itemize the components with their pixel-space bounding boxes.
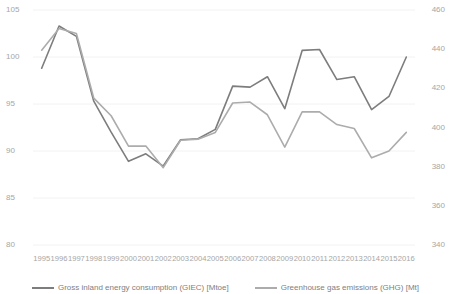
legend-item-giec[interactable]: Gross inland energy consumption (GIEC) […	[32, 283, 229, 292]
chart-legend: Gross inland energy consumption (GIEC) […	[0, 283, 451, 292]
legend-swatch-giec	[32, 287, 54, 289]
legend-label-ghg: Greenhouse gas emissions (GHG) [Mt]	[281, 283, 419, 292]
series-line-ghg	[42, 29, 407, 168]
chart-container: 80859095100105 340360380400420440460 199…	[0, 0, 451, 294]
plot-area	[0, 0, 451, 294]
series-line-giec	[42, 26, 407, 166]
legend-swatch-ghg	[255, 287, 277, 289]
legend-label-giec: Gross inland energy consumption (GIEC) […	[58, 283, 229, 292]
legend-item-ghg[interactable]: Greenhouse gas emissions (GHG) [Mt]	[255, 283, 419, 292]
